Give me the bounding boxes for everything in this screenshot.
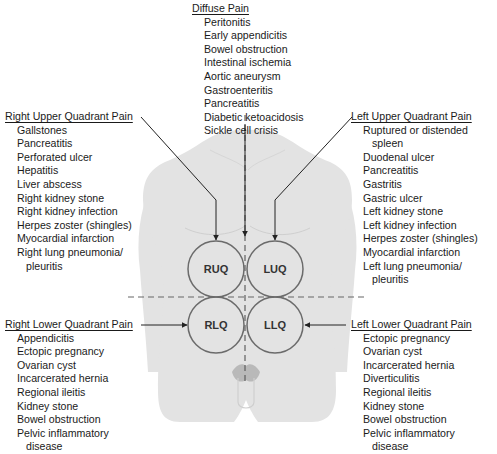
luq-pain-title: Left Upper Quadrant Pain <box>351 110 478 124</box>
groin-shading <box>232 364 260 381</box>
list-item: Intestinal ischemia <box>204 56 304 70</box>
diffuse-pain-group: Diffuse Pain Peritonitis Early appendici… <box>192 2 304 138</box>
list-item: Left kidney infection <box>363 219 478 233</box>
ruq-pain-list: Gallstones Pancreatitis Perforated ulcer… <box>5 124 133 274</box>
list-item: Regional ileitis <box>17 386 133 400</box>
list-item: Kidney stone <box>363 400 472 414</box>
list-item: Bowel obstruction <box>17 413 133 427</box>
list-item: Appendicitis <box>17 332 133 346</box>
list-item: Ovarian cyst <box>17 359 133 373</box>
rlq-pain-title: Right Lower Quadrant Pain <box>5 318 133 332</box>
list-item: Diverticulitis <box>363 372 472 386</box>
list-item: Incarcerated hernia <box>363 359 472 373</box>
list-item-continuation: disease <box>17 440 133 454</box>
list-item: Right lung pneumonia/ <box>17 246 133 260</box>
list-item: Pancreatitis <box>17 137 133 151</box>
list-item: Ectopic pregnancy <box>363 332 472 346</box>
llq-pain-title: Left Lower Quadrant Pain <box>351 318 472 332</box>
list-item: Bowel obstruction <box>204 43 304 57</box>
list-item: Gallstones <box>17 124 133 138</box>
llq-label: LLQ <box>264 319 286 331</box>
list-item-continuation: spleen <box>363 137 478 151</box>
list-item: Left kidney stone <box>363 205 478 219</box>
list-item: Herpes zoster (shingles) <box>363 232 478 246</box>
list-item: Myocardial infarction <box>17 232 133 246</box>
list-item: Myocardial infarction <box>363 246 478 260</box>
list-item: Peritonitis <box>204 16 304 30</box>
list-item: Kidney stone <box>17 400 133 414</box>
list-item: Left lung pneumonia/ <box>363 260 478 274</box>
list-item: Bowel obstruction <box>363 413 472 427</box>
list-item: Duodenal ulcer <box>363 151 478 165</box>
list-item: Ovarian cyst <box>363 345 472 359</box>
list-item: Gastritis <box>363 178 478 192</box>
list-item: Hepatitis <box>17 164 133 178</box>
list-item-continuation: pleuritis <box>363 273 478 287</box>
rlq-pain-list: Appendicitis Ectopic pregnancy Ovarian c… <box>5 332 133 454</box>
list-item: Gastroenteritis <box>204 84 304 98</box>
ruq-label: RUQ <box>204 263 229 275</box>
rlq-label: RLQ <box>204 319 228 331</box>
diffuse-pain-list: Peritonitis Early appendicitis Bowel obs… <box>192 16 304 138</box>
list-item: Ectopic pregnancy <box>17 345 133 359</box>
list-item-continuation: pleuritis <box>17 260 133 274</box>
list-item: Incarcerated hernia <box>17 372 133 386</box>
list-item-continuation: disease <box>363 440 472 454</box>
list-item: Pancreatitis <box>363 164 478 178</box>
list-item: Aortic aneurysm <box>204 70 304 84</box>
list-item: Sickle cell crisis <box>204 124 304 138</box>
diffuse-pain-title: Diffuse Pain <box>192 2 304 16</box>
list-item: Herpes zoster (shingles) <box>17 219 133 233</box>
list-item: Early appendicitis <box>204 29 304 43</box>
list-item: Right kidney infection <box>17 205 133 219</box>
ruq-pain-title: Right Upper Quadrant Pain <box>5 110 133 124</box>
list-item: Right kidney stone <box>17 192 133 206</box>
list-item: Liver abscess <box>17 178 133 192</box>
luq-pain-list: Ruptured or distended spleen Duodenal ul… <box>351 124 478 287</box>
list-item: Pancreatitis <box>204 97 304 111</box>
list-item: Pelvic inflammatory <box>363 427 472 441</box>
luq-pain-group: Left Upper Quadrant Pain Ruptured or dis… <box>351 110 478 287</box>
llq-pain-group: Left Lower Quadrant Pain Ectopic pregnan… <box>351 318 472 454</box>
rlq-pain-group: Right Lower Quadrant Pain Appendicitis E… <box>5 318 133 454</box>
list-item: Ruptured or distended <box>363 124 478 138</box>
llq-pain-list: Ectopic pregnancy Ovarian cyst Incarcera… <box>351 332 472 454</box>
list-item: Gastric ulcer <box>363 192 478 206</box>
list-item: Diabetic ketoacidosis <box>204 111 304 125</box>
ruq-pain-group: Right Upper Quadrant Pain Gallstones Pan… <box>5 110 133 273</box>
luq-label: LUQ <box>263 263 287 275</box>
list-item: Pelvic inflammatory <box>17 427 133 441</box>
list-item: Perforated ulcer <box>17 151 133 165</box>
list-item: Regional ileitis <box>363 386 472 400</box>
